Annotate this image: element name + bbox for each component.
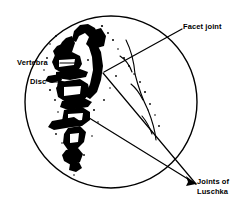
anatomical-figure: Vertebra Disc Facet joint Joints of Lusc… — [0, 0, 245, 212]
label-facet-joint-text: Facet joint — [183, 22, 222, 32]
label-disc-text: Disc — [30, 77, 46, 87]
label-joints-of-luschka-line1: Joints of — [197, 177, 229, 187]
label-vertebra: Vertebra — [17, 58, 48, 68]
label-disc: Disc — [30, 77, 46, 87]
label-joints-of-luschka: Joints of Luschka — [197, 177, 229, 196]
label-joints-of-luschka-line2: Luschka — [197, 187, 229, 197]
label-facet-joint: Facet joint — [183, 22, 222, 32]
label-vertebra-text: Vertebra — [17, 58, 48, 68]
